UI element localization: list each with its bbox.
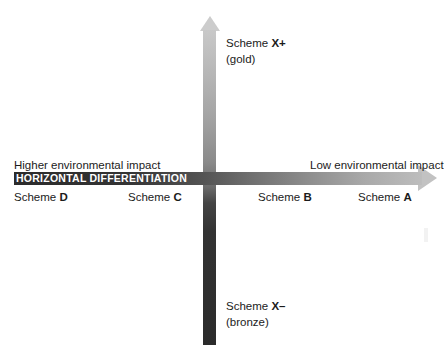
scheme-label-b-key: B [303,191,311,203]
scheme-label-x-plus-prefix: Scheme [226,37,271,49]
vertical-axis-caption: VERTICAL DIFFERENTATION [203,190,216,345]
scheme-label-x-minus-key: X– [271,300,285,312]
vertical-axis-arrowhead-icon [200,16,220,31]
scheme-label-c: Scheme C [128,190,182,204]
horizontal-axis-right-end-label: Low environmental impact [310,158,444,172]
scheme-label-x-plus: Scheme X+ [226,36,286,50]
scheme-label-b-prefix: Scheme [258,191,303,203]
scheme-label-d: Scheme D [14,190,68,204]
scheme-label-d-key: D [59,191,67,203]
differentiation-matrix-diagram: VERTICAL DIFFERENTATION HORIZONTAL DIFFE… [0,0,444,353]
scheme-label-x-plus-key: X+ [271,37,285,49]
scheme-label-d-prefix: Scheme [14,191,59,203]
scheme-label-b: Scheme B [258,190,312,204]
scheme-label-a-key: A [403,191,411,203]
scheme-label-x-plus-sublabel: (gold) [226,52,255,66]
horizontal-axis-caption: HORIZONTAL DIFFERENTIATION [16,172,187,185]
scheme-label-x-minus-sublabel: (bronze) [226,315,269,329]
scheme-label-a-prefix: Scheme [358,191,403,203]
scheme-label-c-key: C [173,191,181,203]
scan-artifact-speck [424,228,428,242]
scheme-label-a: Scheme A [358,190,412,204]
scheme-label-x-minus: Scheme X– [226,299,285,313]
horizontal-axis-left-end-label: Higher environmental impact [14,158,160,172]
scheme-label-x-minus-prefix: Scheme [226,300,271,312]
scheme-label-c-prefix: Scheme [128,191,173,203]
